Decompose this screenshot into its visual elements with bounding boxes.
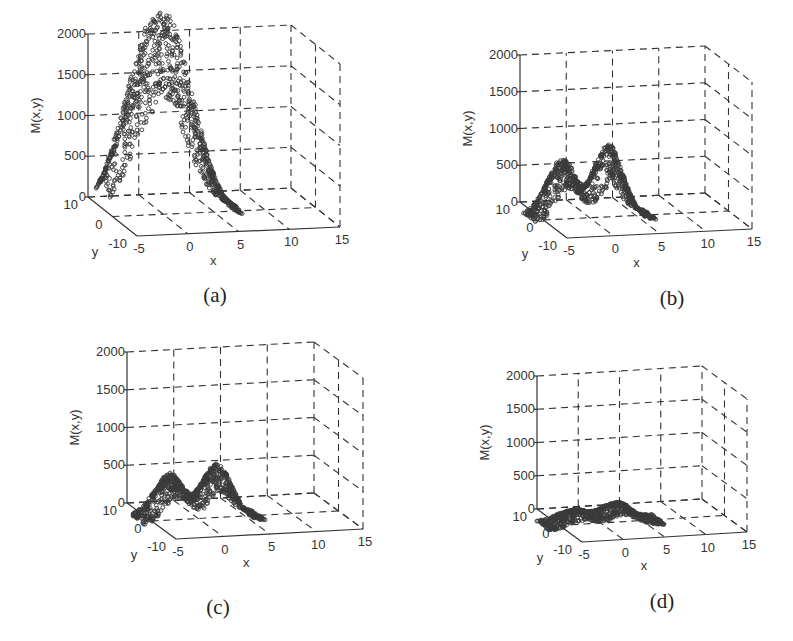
data-point: [181, 130, 185, 134]
data-point: [151, 48, 155, 52]
z-tick-label: 2000: [96, 344, 125, 359]
y-tick-label: 0: [542, 526, 549, 541]
x-tick-label: 0: [622, 545, 629, 560]
z-tick-label: 2000: [57, 26, 86, 41]
z-axis-label: M(x,y): [477, 424, 492, 460]
x-axis: [137, 227, 340, 236]
z-tick-label: 1000: [506, 435, 535, 450]
subplot-c: 0500100015002000-10010-5051015xyM(x,y)(c…: [67, 342, 372, 619]
x-tick-label: 5: [268, 539, 275, 554]
data-point: [190, 92, 194, 96]
x-tick-label: 0: [186, 239, 193, 254]
x-tick-label: -5: [133, 241, 145, 256]
data-point: [147, 107, 151, 111]
data-point: [123, 137, 127, 141]
x-axis-label: x: [641, 558, 648, 573]
x-axis: [582, 532, 747, 542]
x-axis-label: x: [210, 253, 217, 268]
x-axis-label: x: [243, 555, 250, 570]
z-axis-label: M(x,y): [67, 409, 82, 445]
x-tick-label: 5: [663, 542, 670, 557]
x-tick-label: -5: [563, 243, 575, 258]
y-tick-label: 10: [513, 509, 527, 524]
data-point: [154, 100, 158, 104]
gridline-floor-x: [566, 200, 613, 236]
z-tick-label: 500: [496, 157, 518, 172]
subplot-caption: (a): [203, 283, 226, 307]
x-axis: [176, 529, 363, 539]
x-tick-label: -5: [578, 547, 590, 562]
subplot-b: 0500100015002000-10010-5051015xyM(x,y)(b…: [460, 46, 761, 310]
subplot-a: 0500100015002000-10010-5051015xyM(x,y)(a…: [28, 11, 349, 307]
subplot-caption: (b): [660, 286, 685, 310]
z-tick-label: 500: [64, 148, 86, 163]
z-tick-label: 1000: [96, 420, 125, 435]
y-tick-label: -10: [108, 236, 127, 251]
z-tick-label: 2000: [489, 47, 518, 62]
x-tick-label: 0: [612, 241, 619, 256]
data-point: [157, 57, 161, 61]
y-tick-label: 0: [95, 217, 102, 232]
data-point: [165, 54, 169, 58]
y-axis-label: y: [522, 246, 529, 261]
data-point: [129, 126, 133, 130]
z-tick-label: 2000: [506, 368, 535, 383]
z-axis-label: M(x,y): [460, 110, 475, 146]
gridline-right-z: [291, 107, 340, 146]
data-point: [167, 59, 171, 63]
x-tick-label: 15: [742, 537, 756, 552]
y-tick-label: -10: [147, 539, 166, 554]
x-tick-label: 10: [284, 234, 298, 249]
z-tick-label: 1500: [489, 84, 518, 99]
y-tick-label: 0: [134, 521, 141, 536]
gridline-floor-x: [240, 190, 289, 229]
z-tick-label: 0: [118, 495, 125, 510]
x-tick-label: -5: [172, 544, 184, 559]
z-tick-label: 0: [511, 194, 518, 209]
z-tick-label: 1500: [96, 382, 125, 397]
data-point: [121, 158, 125, 162]
scatter-points: [131, 462, 267, 526]
gridline-right-z: [702, 466, 747, 499]
z-tick-label: 0: [528, 501, 535, 516]
y-tick-label: -10: [553, 542, 572, 557]
data-point: [186, 134, 190, 138]
x-tick-label: 5: [658, 239, 665, 254]
z-tick-label: 1000: [57, 108, 86, 123]
data-point: [149, 54, 153, 58]
data-point: [172, 24, 176, 28]
data-point: [129, 117, 133, 121]
subplot-caption: (d): [650, 589, 675, 613]
y-tick-label: 0: [526, 220, 533, 235]
x-tick-label: 15: [335, 232, 349, 247]
x-tick-label: 10: [311, 537, 325, 552]
y-tick-label: -10: [538, 238, 557, 253]
data-point: [135, 123, 139, 127]
x-tick-label: 10: [701, 540, 715, 555]
data-point: [191, 143, 195, 147]
data-point: [144, 101, 148, 105]
y-axis-label: y: [131, 547, 138, 562]
y-tick-label: 10: [496, 202, 510, 217]
data-point: [184, 125, 188, 129]
x-tick-label: 5: [237, 237, 244, 252]
scatter-points: [94, 11, 244, 216]
y-tick-label: 10: [64, 197, 78, 212]
y-axis-label: y: [92, 244, 99, 259]
z-tick-label: 500: [513, 468, 535, 483]
data-point: [140, 128, 144, 132]
z-tick-label: 500: [103, 457, 125, 472]
data-point: [145, 116, 149, 120]
z-axis-label: M(x,y): [28, 97, 43, 133]
y-tick-label: 10: [103, 503, 117, 518]
x-tick-label: 0: [221, 542, 228, 557]
z-tick-label: 1500: [57, 67, 86, 82]
y-axis-label: y: [537, 550, 544, 565]
scatter-points: [522, 143, 658, 224]
gridline-floor-x: [267, 496, 316, 532]
subplot-d: 0500100015002000-10010-5051015xyM(x,y)(d…: [477, 366, 756, 613]
data-point: [108, 177, 112, 181]
gridline-floor-y: [113, 208, 316, 217]
x-axis-label: x: [633, 255, 640, 270]
subplot-caption: (c): [206, 595, 229, 619]
